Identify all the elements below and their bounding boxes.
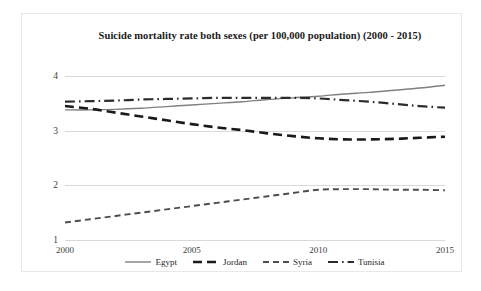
y-axis-tick-label: 2	[53, 180, 58, 190]
legend-swatch-jordan-icon	[193, 257, 219, 267]
series-line-syria	[65, 189, 445, 222]
y-axis-tick-label: 3	[53, 126, 58, 136]
series-line-jordan	[65, 106, 445, 139]
x-axis-tick-label: 2005	[183, 245, 201, 255]
x-axis-tick-label: 2010	[309, 245, 327, 255]
legend-label: Jordan	[223, 257, 247, 267]
legend-item-syria[interactable]: Syria	[263, 257, 312, 267]
legend-swatch-tunisia-icon	[328, 257, 354, 267]
y-axis-tick-label: 1	[53, 235, 58, 245]
legend-item-egypt[interactable]: Egypt	[125, 257, 177, 267]
y-axis-tick-label: 4	[53, 71, 58, 81]
legend-item-jordan[interactable]: Jordan	[193, 257, 247, 267]
legend-label: Syria	[293, 257, 312, 267]
plot-area: 1234 2000200520102015	[65, 76, 445, 240]
chart-title: Suicide mortality rate both sexes (per 1…	[60, 28, 460, 43]
legend-label: Tunisia	[358, 257, 385, 267]
legend-swatch-egypt-icon	[125, 257, 151, 267]
gridline	[65, 240, 445, 241]
x-axis-tick-label: 2015	[436, 245, 454, 255]
series-line-tunisia	[65, 98, 445, 108]
series-line-egypt	[65, 85, 445, 110]
chart-legend: EgyptJordanSyriaTunisia	[65, 257, 445, 267]
legend-item-tunisia[interactable]: Tunisia	[328, 257, 385, 267]
legend-label: Egypt	[155, 257, 177, 267]
x-axis-tick-label: 2000	[56, 245, 74, 255]
series-lines	[65, 76, 445, 240]
chart-frame: Suicide mortality rate both sexes (per 1…	[21, 13, 462, 272]
legend-swatch-syria-icon	[263, 257, 289, 267]
